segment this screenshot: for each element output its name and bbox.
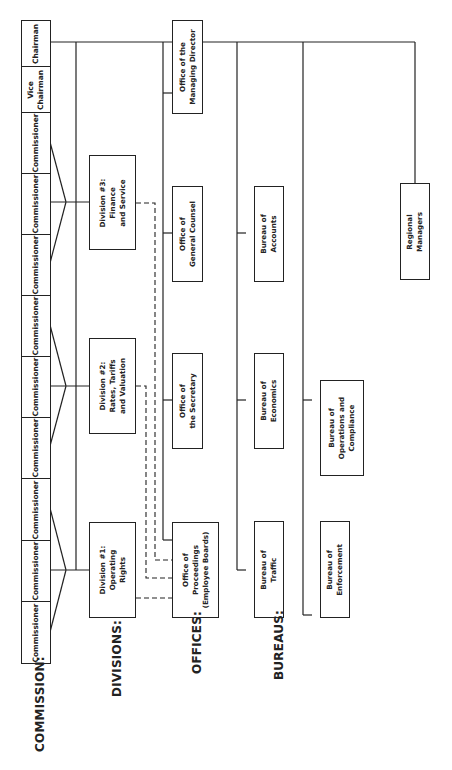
division-3-box: Division #3: Finance and Service — [89, 155, 136, 250]
chairman-box: Chairman — [21, 20, 51, 67]
commissioner-label: Commissioner — [31, 236, 41, 295]
commissioner-label: Commissioner — [31, 480, 41, 539]
bureau-economics-label: Bureau of Economics — [259, 380, 279, 423]
connector-lines — [0, 0, 452, 770]
bureau-accounts-label: Bureau of Accounts — [259, 214, 279, 254]
level-label-divisions: DIVISIONS: — [110, 620, 124, 697]
commissioner-label: Commissioner — [31, 175, 41, 234]
bureau-traffic-label: Bureau of Traffic — [259, 550, 279, 590]
bureau-operations-label: Bureau of Operations and Compliance — [327, 397, 357, 459]
office-secretary-box: Office of the Secretary — [172, 353, 203, 449]
division-2-label: Division #2: Rates, Tariffs and Valuatio… — [98, 358, 128, 414]
commissioner-box: Commissioner — [21, 601, 51, 664]
level-label-commission: COMMISSION: — [33, 656, 47, 752]
division-1-box: Division #1: Operating Rights — [89, 522, 136, 618]
division-3-label: Division #3: Finance and Service — [98, 178, 128, 227]
commissioner-label: Commissioner — [31, 419, 41, 478]
regional-managers-label: Regional Managers — [405, 212, 425, 252]
commissioner-box: Commissioner — [21, 478, 51, 541]
commissioner-label: Commissioner — [31, 114, 41, 173]
commissioner-box: Commissioner — [21, 417, 51, 479]
office-secretary-label: Office of the Secretary — [178, 373, 198, 428]
office-general-counsel-label: Office of General Counsel — [178, 201, 198, 267]
bureau-operations-box: Bureau of Operations and Compliance — [320, 380, 364, 476]
chairman-label: Chairman — [31, 24, 41, 64]
division-2-box: Division #2: Rates, Tariffs and Valuatio… — [89, 338, 136, 434]
commissioner-box: Commissioner — [21, 173, 51, 235]
level-label-offices: OFFICES: — [190, 611, 204, 674]
level-label-bureaus: BUREAUS: — [272, 610, 286, 680]
commissioner-box: Commissioner — [21, 234, 51, 296]
bureau-accounts-box: Bureau of Accounts — [254, 186, 284, 282]
office-general-counsel-box: Office of General Counsel — [172, 186, 203, 282]
commissioner-box: Commissioner — [21, 540, 51, 602]
commissioner-label: Commissioner — [31, 297, 41, 356]
commissioner-label: Commissioner — [31, 603, 41, 662]
office-managing-director-box: Office of the Managing Director — [172, 20, 203, 114]
office-proceedings-box: Office of Proceedings (Employee Boards) — [172, 522, 219, 618]
bureau-economics-box: Bureau of Economics — [254, 353, 284, 449]
vice-chairman-label: Vice Chairman — [26, 70, 46, 110]
bureau-traffic-box: Bureau of Traffic — [254, 521, 284, 618]
commissioner-label: Commissioner — [31, 358, 41, 417]
regional-managers-box: Regional Managers — [400, 183, 430, 280]
commissioner-box: Commissioner — [21, 112, 51, 174]
commissioner-box: Commissioner — [21, 356, 51, 418]
vice-chairman-box: Vice Chairman — [21, 66, 51, 113]
commissioner-label: Commissioner — [31, 542, 41, 601]
org-chart: Chairman Vice Chairman Commissioner Comm… — [0, 0, 452, 770]
office-managing-director-label: Office of the Managing Director — [178, 29, 198, 104]
office-proceedings-label: Office of Proceedings (Employee Boards) — [181, 532, 211, 609]
commissioner-box: Commissioner — [21, 295, 51, 357]
bureau-enforcement-box: Bureau of Enforcement — [320, 521, 350, 618]
division-1-label: Division #1: Operating Rights — [98, 546, 128, 595]
bureau-enforcement-label: Bureau of Enforcement — [325, 544, 345, 596]
